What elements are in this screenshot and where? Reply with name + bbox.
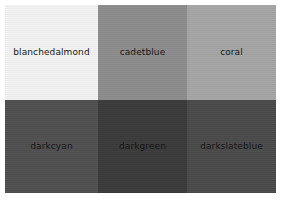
swatch-label: coral <box>220 47 243 58</box>
swatch-label: darkcyan <box>30 141 72 152</box>
swatch-cell-darkslateblue[interactable]: darkslateblue <box>187 100 276 193</box>
swatch-label: blanchedalmond <box>13 47 89 58</box>
swatch-cell-cadetblue[interactable]: cadetblue <box>98 5 187 100</box>
swatch-cell-blanchedalmond[interactable]: blanchedalmond <box>5 5 98 100</box>
swatch-label: darkslateblue <box>200 141 263 152</box>
swatch-label: darkgreen <box>119 141 166 152</box>
swatch-label: cadetblue <box>120 47 166 58</box>
swatch-cell-coral[interactable]: coral <box>187 5 276 100</box>
color-swatch-grid: blanchedalmond cadetblue coral darkcyan … <box>5 5 276 193</box>
swatch-cell-darkgreen[interactable]: darkgreen <box>98 100 187 193</box>
swatch-cell-darkcyan[interactable]: darkcyan <box>5 100 98 193</box>
